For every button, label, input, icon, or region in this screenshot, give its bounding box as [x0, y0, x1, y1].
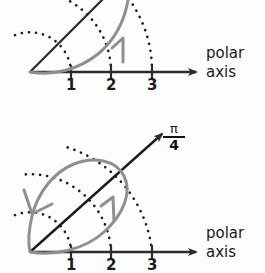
pi-over-4-label: π 4: [163, 122, 185, 152]
bottom-polar-axis-label-line2: axis: [206, 245, 236, 260]
bottom-tick-label-2: 2: [106, 258, 116, 273]
bottom-tick-label-3: 3: [147, 258, 157, 273]
top-arc-r1: [11, 32, 71, 72]
top-dotted-arcs: [11, 0, 152, 72]
bottom-polar-axis-label-line1: polar: [206, 226, 244, 241]
top-polar-axis-label-line2: axis: [206, 65, 236, 80]
top-polar-axis-label-line1: polar: [206, 46, 244, 61]
top-tick-label-3: 3: [147, 78, 157, 93]
bottom-tick-label-1: 1: [66, 258, 76, 273]
top-arc-r2: [52, 0, 111, 72]
bottom-diagram-group: [11, 134, 196, 258]
top-tick-label-1: 1: [66, 78, 76, 93]
bottom-reference-ray: [30, 134, 162, 252]
top-tick-label-2: 2: [106, 78, 116, 93]
top-spiral-curve: [30, 0, 129, 73]
top-spiral-arrowhead: [112, 38, 123, 62]
bottom-arc-r1: [11, 212, 71, 252]
four-denominator: 4: [163, 138, 185, 152]
top-reference-ray: [30, 0, 126, 72]
top-diagram-group: [11, 0, 196, 78]
left-edge-cut-glyph: ▐: [0, 148, 3, 168]
polar-figure: 1 2 3 polar axis 1 2 3 polar axis π 4 ▐: [0, 0, 265, 273]
pi-numerator: π: [163, 122, 185, 135]
